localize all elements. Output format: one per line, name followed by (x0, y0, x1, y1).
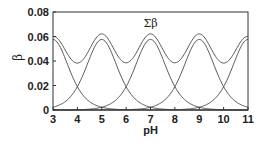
x-axis-label: pH (143, 124, 158, 136)
sum-curve (53, 34, 248, 63)
x-tick-label: 4 (74, 113, 81, 125)
x-tick-label: 3 (50, 113, 56, 125)
sum-beta-label: Σβ (143, 17, 157, 30)
x-tick-label: 6 (123, 113, 129, 125)
y-tick-label: 0.06 (28, 31, 49, 43)
x-tick-label: 9 (196, 113, 202, 125)
chart-canvas: 00.020.040.060.08 34567891011 pH β Σβ (0, 0, 264, 146)
y-axis-label: β (11, 54, 25, 61)
component-curve (53, 39, 248, 110)
y-tick-label: 0.08 (28, 6, 49, 18)
y-tick-label: 0.02 (28, 80, 49, 92)
component-curve (53, 39, 248, 110)
buffer-capacity-chart: 00.020.040.060.08 34567891011 pH β Σβ (0, 0, 264, 146)
component-curve (53, 39, 248, 110)
x-tick-label: 5 (99, 113, 105, 125)
y-axis-ticks: 00.020.040.060.08 (28, 6, 56, 116)
x-tick-label: 11 (242, 113, 254, 125)
component-curve (53, 39, 248, 110)
y-tick-label: 0.04 (28, 55, 50, 67)
curves (53, 34, 248, 110)
x-tick-label: 10 (218, 113, 230, 125)
y-tick-label: 0 (43, 104, 49, 116)
component-curve (53, 39, 248, 110)
x-tick-label: 8 (172, 113, 178, 125)
